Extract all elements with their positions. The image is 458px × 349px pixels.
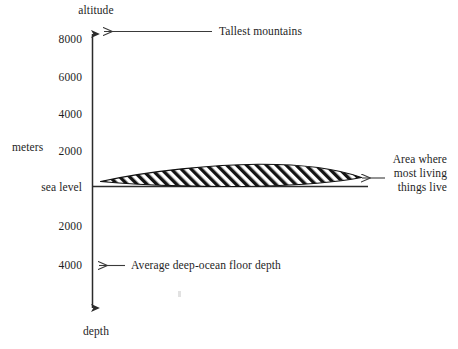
altitude-axis-label: altitude	[66, 4, 126, 17]
tick-label-above-2000: 2000	[22, 145, 82, 158]
biosphere-lens-region	[101, 164, 362, 186]
tick-label-above-8000: 8000	[22, 33, 82, 46]
tick-label-below-2000: 2000	[22, 220, 82, 233]
scan-artifact	[178, 291, 181, 297]
tick-label-below-4000: 4000	[22, 259, 82, 272]
callout-average-ocean-floor: Average deep-ocean floor depth	[131, 259, 281, 272]
depth-axis-label: depth	[66, 325, 126, 338]
sea-level-label: sea level	[12, 181, 82, 194]
callout-living-area-line-2: most living	[337, 166, 447, 180]
callout-living-area-line-1: Area where	[337, 152, 447, 166]
tick-label-above-6000: 6000	[22, 71, 82, 84]
altitude-depth-diagram: altitude depth meters 8000 6000 4000 200…	[0, 0, 458, 349]
callout-tallest-mountains: Tallest mountains	[219, 25, 302, 38]
tick-label-above-4000: 4000	[22, 108, 82, 121]
callout-living-area-line-3: things live	[337, 180, 447, 194]
hatched-lens-shape	[101, 164, 362, 186]
